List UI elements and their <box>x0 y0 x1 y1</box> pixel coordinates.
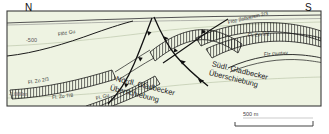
cross-section-drawing <box>0 0 329 134</box>
scale-bar <box>235 118 313 126</box>
geological-cross-section: N S -500 -1000m Flöz Zollverein 2/3 Fl. … <box>0 0 329 134</box>
